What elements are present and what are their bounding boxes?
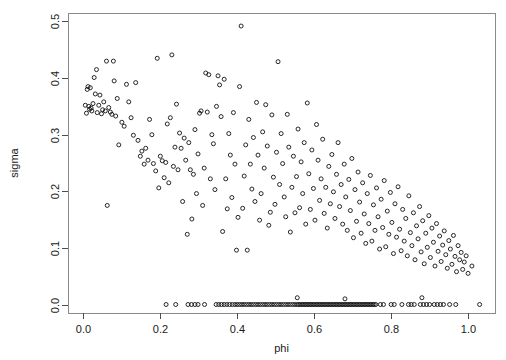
data-point <box>313 218 317 222</box>
data-point <box>176 168 180 172</box>
data-point <box>433 264 437 268</box>
data-points-layer <box>83 24 481 306</box>
data-point <box>411 211 415 215</box>
data-point <box>148 117 152 121</box>
data-point <box>399 249 403 253</box>
data-point <box>140 149 144 153</box>
data-point <box>350 156 354 160</box>
data-point <box>402 239 406 243</box>
data-point <box>253 199 257 203</box>
data-point <box>288 230 292 234</box>
data-point <box>291 154 295 158</box>
y-axis-tick-labels: 0.00.10.20.30.40.5 <box>49 14 61 313</box>
data-point <box>210 133 214 137</box>
data-point <box>347 177 351 181</box>
data-point <box>435 222 439 226</box>
data-point <box>173 145 177 149</box>
data-point <box>454 303 458 307</box>
data-point <box>466 271 470 275</box>
y-tick-label: 0.5 <box>49 14 61 29</box>
data-point <box>420 296 424 300</box>
data-point <box>290 185 294 189</box>
data-point <box>304 222 308 226</box>
data-point <box>318 198 322 202</box>
data-point <box>190 217 194 221</box>
data-point <box>127 100 131 104</box>
data-point <box>102 100 106 104</box>
data-point <box>179 146 183 150</box>
data-point <box>117 143 121 147</box>
data-point <box>184 158 188 162</box>
data-point <box>157 186 161 190</box>
data-point <box>98 93 102 97</box>
data-point <box>281 162 285 166</box>
data-point <box>400 303 404 307</box>
data-point <box>295 296 299 300</box>
data-point <box>378 247 382 251</box>
data-point <box>315 123 319 127</box>
data-point <box>364 241 368 245</box>
data-point <box>259 192 263 196</box>
data-point <box>321 137 325 141</box>
data-point <box>308 207 312 211</box>
data-point <box>258 218 262 222</box>
data-point <box>365 192 369 196</box>
data-point <box>453 254 457 258</box>
data-point <box>319 177 323 181</box>
data-point <box>301 192 305 196</box>
data-point <box>415 224 419 228</box>
data-point <box>410 244 414 248</box>
data-point <box>338 205 342 209</box>
data-point <box>418 205 422 209</box>
data-point <box>398 227 402 231</box>
data-point <box>93 92 97 96</box>
data-point <box>231 111 235 115</box>
data-point <box>390 220 394 224</box>
y-tick-label: 0.2 <box>49 184 61 199</box>
data-point <box>247 117 251 121</box>
data-point <box>201 203 205 207</box>
data-point <box>458 258 462 262</box>
data-point <box>439 259 443 263</box>
y-tick-label: 0.4 <box>49 71 61 86</box>
data-point <box>111 59 115 63</box>
data-point <box>270 113 274 117</box>
data-point <box>382 179 386 183</box>
data-point <box>430 226 434 230</box>
data-point <box>230 196 234 200</box>
data-point <box>255 100 259 104</box>
data-point <box>310 148 314 152</box>
data-point <box>451 233 455 237</box>
data-point <box>191 172 195 176</box>
data-point <box>373 228 377 232</box>
plot-frame <box>69 14 496 314</box>
data-point <box>242 174 246 178</box>
data-point <box>311 186 315 190</box>
data-point <box>345 228 349 232</box>
data-point <box>328 202 332 206</box>
data-point <box>356 170 360 174</box>
data-point <box>205 110 209 114</box>
data-point <box>448 247 452 251</box>
data-point <box>279 132 283 136</box>
data-point <box>122 124 126 128</box>
y-tick-label: 0.1 <box>49 241 61 256</box>
data-point <box>343 297 347 301</box>
data-point <box>238 85 242 89</box>
data-point <box>256 153 260 157</box>
data-point <box>222 77 226 81</box>
x-tick-label: 0.0 <box>76 323 91 335</box>
data-point <box>185 232 189 236</box>
y-axis-title: sigma <box>8 147 20 177</box>
data-point <box>271 175 275 179</box>
y-tick-label: 0.0 <box>49 298 61 313</box>
data-point <box>375 186 379 190</box>
x-tick-label: 0.8 <box>384 323 399 335</box>
data-point <box>316 158 320 162</box>
data-point <box>438 234 442 238</box>
data-point <box>324 185 328 189</box>
data-point <box>194 192 198 196</box>
data-point <box>295 175 299 179</box>
data-point <box>208 177 212 181</box>
data-point <box>216 74 220 78</box>
